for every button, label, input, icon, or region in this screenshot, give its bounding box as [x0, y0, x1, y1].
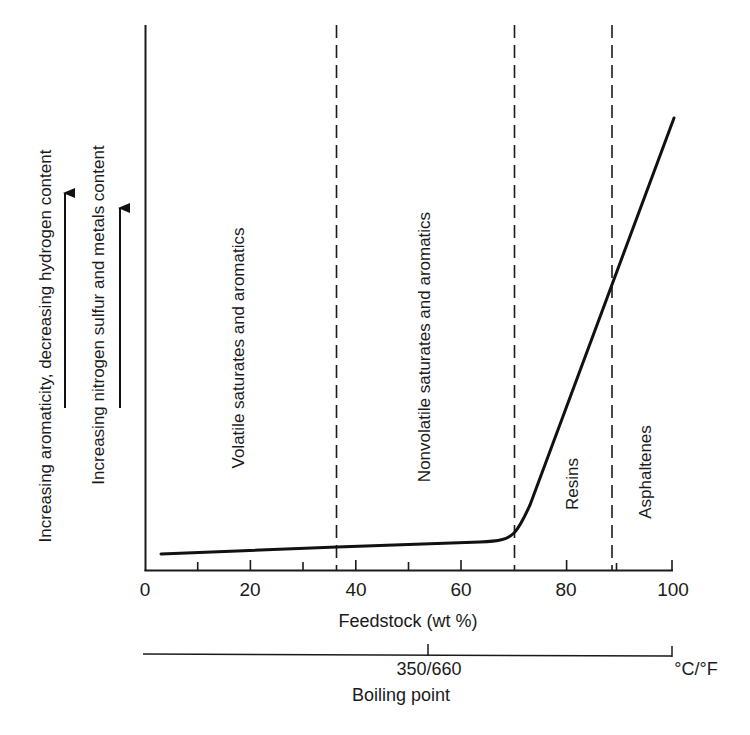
- y-annotation-aromaticity: Increasing aromaticity, decreasing hydro…: [36, 149, 55, 542]
- x-tick-label-0: 0: [140, 579, 151, 600]
- x-tick-label-40: 40: [345, 579, 366, 600]
- region-label-volatile: Volatile saturates and aromatics: [229, 228, 248, 469]
- y-annotation-nitrogen: Increasing nitrogen sulfur and metals co…: [89, 145, 108, 485]
- boiling-point-axis: [143, 644, 672, 657]
- region-label-resins: Resins: [563, 458, 582, 510]
- region-label-asphaltenes: Asphaltenes: [636, 425, 655, 519]
- x-tick-label-80: 80: [555, 579, 576, 600]
- boiling-point-tick-label: 350/660: [396, 659, 461, 679]
- x-tick-label-20: 20: [239, 579, 260, 600]
- region-label-nonvolatile: Nonvolatile saturates and aromatics: [415, 212, 434, 482]
- boiling-point-label: Boiling point: [352, 685, 450, 705]
- chart-canvas: 0 20 40 60 80 100 Feedstock (wt %) Volat…: [0, 0, 750, 735]
- x-axis-title: Feedstock (wt %): [338, 611, 477, 631]
- x-tick-label-100: 100: [657, 579, 689, 600]
- boiling-point-unit: °C/°F: [674, 659, 717, 679]
- x-tick-label-60: 60: [450, 579, 471, 600]
- x-ticks: [198, 560, 672, 570]
